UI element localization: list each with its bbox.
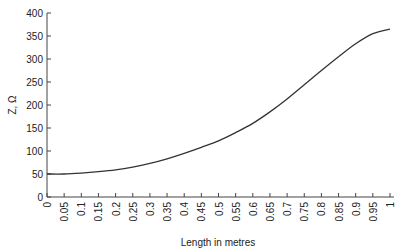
line-chart: 050100150200250300350400 00.050.10.150.2… [0,0,401,251]
y-tick-label: 250 [26,77,43,88]
x-tick-label: 0.35 [162,202,173,222]
x-tick-label: 0.7 [282,202,293,216]
plot-area [47,29,390,174]
y-tick-label: 50 [32,169,44,180]
x-tick-label: 0.1 [76,202,87,216]
x-tick-label: 0.85 [334,202,345,222]
x-tick-label: 0.8 [316,202,327,216]
y-tick-label: 300 [26,54,43,65]
x-axis: 00.050.10.150.20.250.30.350.40.450.50.55… [42,193,396,221]
x-tick-label: 0.45 [196,202,207,222]
x-tick-label: 0.05 [59,202,70,222]
x-tick-label: 0.5 [214,202,225,216]
x-tick-label: 0 [42,202,53,208]
x-tick-label: 0.55 [231,202,242,222]
x-tick-label: 0.4 [179,202,190,216]
y-tick-label: 150 [26,123,43,134]
x-tick-label: 0.3 [145,202,156,216]
impedance-curve [47,29,390,174]
y-tick-label: 200 [26,100,43,111]
x-tick-label: 0.6 [248,202,259,216]
x-tick-label: 0.2 [111,202,122,216]
y-tick-label: 400 [26,8,43,19]
y-axis-title: Z, Ω [7,95,18,115]
x-tick-label: 0.9 [351,202,362,216]
y-tick-label: 350 [26,31,43,42]
x-tick-label: 0.75 [299,202,310,222]
x-axis-title: Length in metres [181,237,256,248]
x-tick-label: 0.25 [128,202,139,222]
x-tick-label: 1 [385,202,396,208]
y-tick-label: 100 [26,146,43,157]
x-tick-label: 0.95 [368,202,379,222]
y-tick-label: 0 [37,192,43,203]
x-tick-label: 0.65 [265,202,276,222]
x-tick-label: 0.15 [93,202,104,222]
